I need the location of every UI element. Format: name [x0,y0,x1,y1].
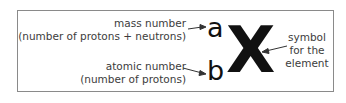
element-arrow-icon [266,46,287,51]
arrows [0,0,346,103]
